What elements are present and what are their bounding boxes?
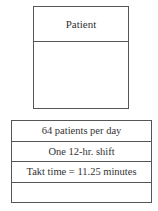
customer-process-box: Patient <box>33 6 129 109</box>
process-title: Patient <box>34 7 128 42</box>
customer-data-box: 64 patients per day One 12-hr. shift Tak… <box>11 120 152 203</box>
data-row-takt-time: Takt time = 11.25 minutes <box>12 162 151 183</box>
data-row-empty <box>12 183 151 204</box>
data-row-demand: 64 patients per day <box>12 121 151 142</box>
data-row-shift: One 12-hr. shift <box>12 142 151 163</box>
